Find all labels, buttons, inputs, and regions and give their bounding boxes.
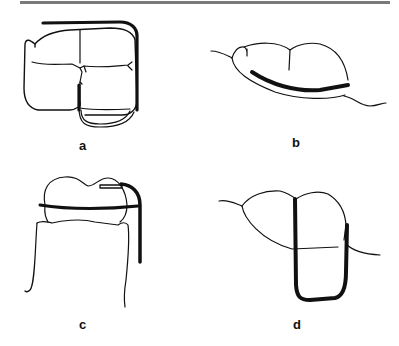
panel-label-b: b: [292, 136, 300, 149]
panel-label-c: c: [79, 318, 86, 331]
panel-a-drawing: [24, 22, 137, 127]
panel-label-a: a: [79, 139, 86, 152]
figure-drawing: [0, 0, 399, 346]
panel-label-d: d: [293, 318, 301, 331]
panel-d-drawing: [219, 191, 380, 300]
panel-c-drawing: [25, 177, 140, 307]
panel-b-drawing: [211, 43, 386, 106]
